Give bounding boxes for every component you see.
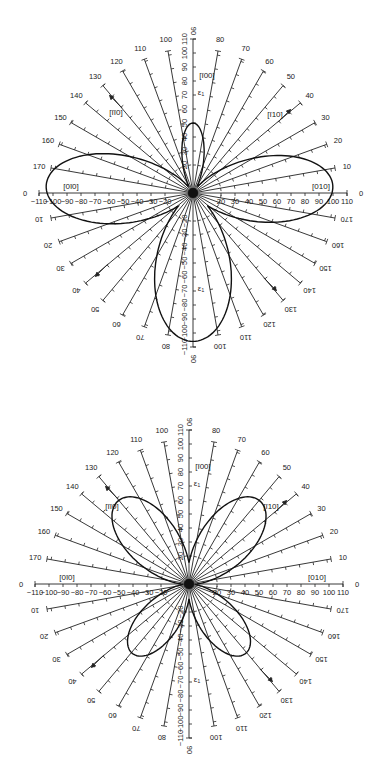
- scale-tick: [242, 108, 245, 110]
- scale-tick: [268, 254, 270, 256]
- scale-tick: [256, 301, 259, 303]
- scale-tick: [145, 60, 148, 61]
- scale-tick: [205, 261, 208, 262]
- scale-tick: [238, 667, 241, 669]
- scale-tick: [278, 144, 280, 147]
- scale-tick: [139, 127, 141, 129]
- scale-tick: [159, 285, 162, 286]
- horizontal-scale-label: −100: [45, 197, 62, 206]
- horizontal-scale-label: 20: [217, 197, 225, 206]
- scale-tick: [135, 518, 137, 520]
- scale-tick: [176, 96, 179, 97]
- horizontal-scale-label: −50: [113, 588, 126, 597]
- axis-end-label-left: 0: [19, 580, 23, 589]
- scale-tick: [247, 255, 249, 257]
- scale-tick: [84, 127, 86, 130]
- scale-tick: [245, 679, 248, 681]
- scale-tick: [57, 533, 58, 536]
- spoke-angle-label: 100: [156, 426, 169, 435]
- scale-tick: [92, 501, 94, 503]
- scale-tick: [125, 638, 127, 640]
- scale-tick: [274, 535, 276, 538]
- scale-tick: [210, 96, 213, 97]
- scale-tick: [97, 618, 98, 621]
- scale-tick: [259, 169, 260, 172]
- horizontal-scale-label: −60: [103, 197, 116, 206]
- scale-tick: [133, 486, 136, 488]
- scale-tick: [272, 164, 273, 167]
- scale-tick: [88, 231, 89, 234]
- scale-tick: [57, 632, 58, 635]
- scale-tick: [208, 275, 211, 276]
- scale-tick: [203, 622, 206, 623]
- spoke-angle-label: 130: [281, 696, 294, 705]
- horizontal-scale-label: −20: [159, 197, 172, 206]
- scale-tick: [223, 492, 226, 493]
- scale-tick: [298, 228, 299, 231]
- direction-label-up: [ī00]: [195, 462, 211, 471]
- scale-tick: [108, 141, 110, 144]
- scale-tick: [157, 611, 159, 613]
- scale-tick: [194, 556, 197, 557]
- scale-tick: [170, 694, 173, 695]
- scale-tick: [203, 545, 206, 546]
- scale-tick: [258, 572, 259, 575]
- spoke-angle-label: 40: [68, 677, 76, 686]
- scale-tick: [208, 694, 211, 695]
- scale-tick: [168, 620, 171, 622]
- scale-tick: [217, 330, 220, 331]
- scale-tick: [256, 266, 258, 268]
- scale-tick: [112, 290, 114, 292]
- scale-tick: [69, 168, 70, 171]
- scale-tick: [207, 216, 210, 218]
- scale-tick: [220, 223, 222, 225]
- scale-tick: [165, 143, 168, 145]
- scale-tick: [55, 217, 56, 220]
- epsilon-label-up: ε₁: [198, 88, 205, 97]
- scale-tick: [75, 236, 76, 239]
- scale-tick: [247, 148, 249, 150]
- scale-tick: [126, 659, 128, 661]
- scale-tick: [172, 681, 175, 682]
- scale-tick: [172, 155, 175, 157]
- epsilon-label-down: ε₁: [194, 675, 201, 684]
- scale-tick: [234, 530, 236, 532]
- scale-tick: [207, 231, 210, 232]
- scale-tick: [80, 518, 82, 521]
- scale-tick: [153, 539, 155, 541]
- scale-tick: [175, 170, 177, 172]
- scale-tick: [201, 515, 204, 516]
- scale-tick: [294, 619, 295, 622]
- scale-tick: [171, 561, 173, 563]
- scale-tick: [208, 110, 211, 111]
- scale-tick: [331, 169, 332, 172]
- spoke-angle-label: 50: [87, 696, 95, 705]
- horizontal-scale-label: 50: [255, 588, 263, 597]
- scale-tick: [174, 82, 177, 83]
- scale-tick: [286, 637, 288, 640]
- spoke-end-cap: [211, 725, 217, 726]
- horizontal-scale-label: −80: [75, 197, 88, 206]
- vertical-scale-label: −50: [176, 648, 185, 661]
- scale-tick: [169, 259, 172, 260]
- spoke-angle-label: 140: [70, 91, 83, 100]
- scale-tick: [262, 542, 264, 545]
- scale-tick: [139, 238, 141, 240]
- scale-tick: [151, 689, 154, 690]
- epsilon-label-up: ε₁: [194, 479, 201, 488]
- scale-tick: [236, 227, 238, 229]
- scale-tick: [161, 632, 164, 634]
- scale-tick: [303, 174, 304, 177]
- scale-tick: [107, 119, 109, 121]
- scale-tick: [238, 139, 240, 141]
- scale-tick: [317, 171, 318, 174]
- scale-tick: [169, 126, 172, 127]
- scale-tick: [121, 279, 123, 281]
- scale-tick: [92, 640, 94, 643]
- scale-tick: [242, 600, 243, 603]
- scale-tick: [229, 234, 231, 236]
- scale-tick: [137, 95, 140, 97]
- scale-tick: [134, 571, 135, 574]
- scale-tick: [133, 681, 136, 683]
- scale-tick: [228, 132, 231, 134]
